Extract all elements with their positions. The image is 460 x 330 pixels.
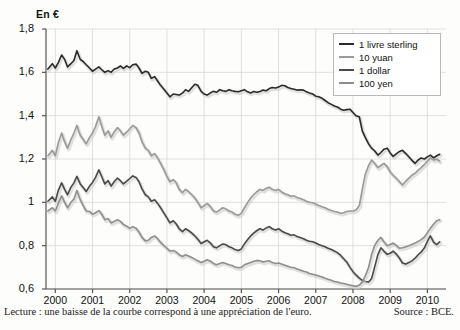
legend-label: 1 livre sterling [359,39,418,50]
y-tick-label: 1,4 [0,109,34,121]
y-tick-label: 1,6 [0,65,34,77]
legend-swatch-icon [339,43,354,45]
footer-source: Source : BCE. [394,306,454,317]
legend-item[interactable]: 100 yen [339,77,435,89]
y-tick-label: 0,8 [0,239,34,251]
legend-label: 100 yen [359,78,393,89]
series-line [48,117,440,216]
chart-legend: 1 livre sterling10 yuan1 dollar100 yen [333,33,441,96]
y-tick-label: 1,2 [0,152,34,164]
series-line [48,190,440,286]
legend-swatch-icon [339,82,354,84]
legend-label: 10 yuan [359,52,393,63]
legend-swatch-icon [339,56,354,58]
x-tick-label: 2010 [405,294,449,306]
footer-reading-note: Lecture : une baisse de la courbe corres… [4,306,312,317]
y-tick-label: 0,6 [0,282,34,294]
y-tick-label: 1,8 [0,22,34,34]
legend-label: 1 dollar [359,65,390,76]
currency-exchange-chart: En € 0,60,811,21,41,61,8 200020012002200… [0,0,460,330]
legend-item[interactable]: 1 livre sterling [339,38,435,50]
legend-item[interactable]: 1 dollar [339,64,435,76]
legend-swatch-icon [339,69,354,71]
y-tick-label: 1 [0,195,34,207]
legend-item[interactable]: 10 yuan [339,51,435,63]
